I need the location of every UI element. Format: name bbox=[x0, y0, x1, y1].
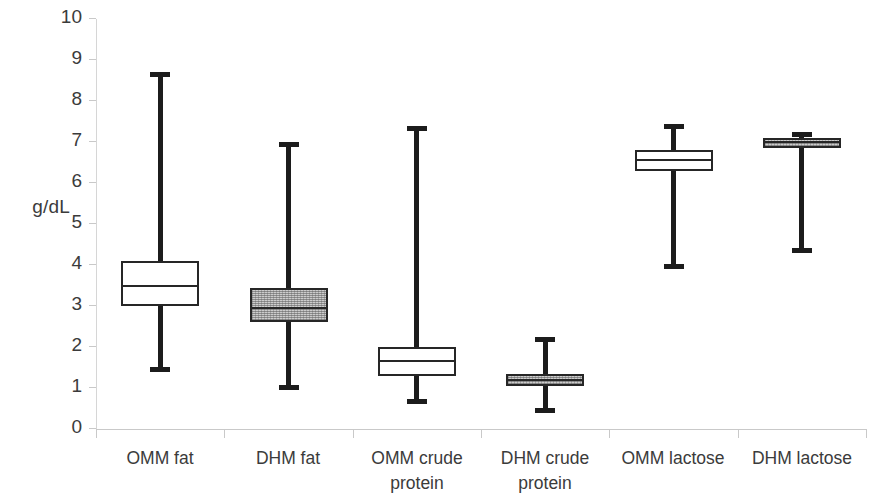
tick-mark bbox=[89, 387, 96, 388]
tick-mark bbox=[89, 100, 96, 101]
x-axis-label-4: OMM lactose bbox=[609, 446, 737, 471]
median-line bbox=[250, 307, 328, 309]
whisker-lower bbox=[286, 322, 291, 390]
x-axis-label-5: DHM lactose bbox=[738, 446, 866, 471]
y-axis-tick-label: 9 bbox=[71, 47, 82, 69]
tick-mark bbox=[89, 428, 96, 429]
median-line bbox=[763, 141, 841, 143]
whisker-cap-max bbox=[407, 126, 427, 131]
x-axis-separator bbox=[353, 429, 354, 438]
whisker-cap-max bbox=[664, 124, 684, 129]
y-axis-tick-label: 5 bbox=[71, 211, 82, 233]
x-axis-separator bbox=[609, 429, 610, 438]
median-line bbox=[378, 360, 456, 362]
y-axis-tick-label: 4 bbox=[71, 252, 82, 274]
tick-mark bbox=[89, 182, 96, 183]
tick-mark bbox=[89, 264, 96, 265]
y-axis-line bbox=[96, 19, 97, 430]
boxplot-chart: g/dL 012345678910 OMM fatDHM fatOMM crud… bbox=[0, 0, 893, 502]
tick-mark bbox=[89, 18, 96, 19]
box-iqr bbox=[121, 261, 199, 306]
tick-mark bbox=[89, 59, 96, 60]
whisker-lower bbox=[158, 306, 163, 372]
median-line bbox=[635, 159, 713, 161]
x-axis-label-3: DHM crude protein bbox=[481, 446, 609, 496]
box-iqr bbox=[763, 138, 841, 148]
y-axis-tick-label: 10 bbox=[61, 6, 82, 28]
whisker-upper bbox=[158, 72, 163, 261]
whisker-cap-min bbox=[150, 367, 170, 372]
whisker-cap-max bbox=[279, 142, 299, 147]
whisker-cap-min bbox=[664, 264, 684, 269]
x-axis-separator bbox=[866, 429, 867, 438]
y-axis-tick-label: 3 bbox=[71, 293, 82, 315]
x-axis-label-1: DHM fat bbox=[224, 446, 352, 471]
x-axis-label-0: OMM fat bbox=[96, 446, 224, 471]
x-axis-separator bbox=[96, 429, 97, 438]
median-line bbox=[121, 285, 199, 287]
x-axis-separator bbox=[481, 429, 482, 438]
whisker-cap-max bbox=[150, 72, 170, 77]
y-axis-title: g/dL bbox=[8, 196, 70, 218]
whisker-lower bbox=[671, 171, 676, 269]
y-axis-tick-label: 8 bbox=[71, 88, 82, 110]
tick-mark bbox=[89, 223, 96, 224]
y-axis-tick-label: 1 bbox=[71, 375, 82, 397]
tick-mark bbox=[89, 305, 96, 306]
tick-mark bbox=[89, 141, 96, 142]
y-axis-tick-label: 2 bbox=[71, 334, 82, 356]
whisker-cap-min bbox=[535, 408, 555, 413]
y-axis-tick-label: 6 bbox=[71, 170, 82, 192]
y-axis-tick-label: 0 bbox=[71, 416, 82, 438]
whisker-upper bbox=[414, 126, 419, 347]
whisker-upper bbox=[286, 142, 291, 288]
whisker-cap-min bbox=[407, 399, 427, 404]
whisker-lower bbox=[799, 148, 804, 253]
whisker-cap-max bbox=[535, 337, 555, 342]
x-axis-separator bbox=[224, 429, 225, 438]
whisker-upper bbox=[543, 337, 548, 374]
x-axis-label-2: OMM crude protein bbox=[353, 446, 481, 496]
median-line bbox=[506, 379, 584, 381]
box-iqr bbox=[250, 288, 328, 323]
whisker-cap-max bbox=[792, 132, 812, 137]
whisker-cap-min bbox=[792, 248, 812, 253]
tick-mark bbox=[89, 346, 96, 347]
whisker-cap-min bbox=[279, 385, 299, 390]
y-axis-tick-label: 7 bbox=[71, 129, 82, 151]
x-axis-separator bbox=[738, 429, 739, 438]
